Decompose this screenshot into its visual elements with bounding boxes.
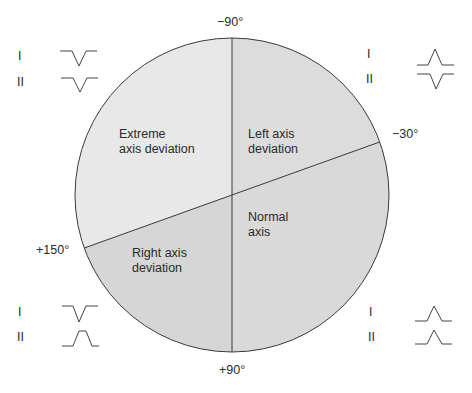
region-label-extreme: Extreme axis deviation	[119, 127, 195, 157]
lead-label-bottom-left-i: I	[18, 305, 21, 319]
waveform-top-left-lead-ii-negative-icon	[61, 78, 98, 92]
angle-label-left: +150°	[36, 243, 69, 257]
region-label-normal-line2: axis	[248, 225, 288, 240]
region-label-right-line2: deviation	[132, 261, 187, 276]
waveform-top-right-lead-i-positive-icon	[417, 49, 454, 65]
region-label-extreme-line2: axis deviation	[119, 142, 195, 157]
lead-label-bottom-right-i: I	[369, 305, 372, 319]
region-label-normal-line1: Normal	[248, 210, 288, 225]
region-label-left: Left axis deviation	[248, 127, 298, 157]
region-label-extreme-line1: Extreme	[119, 127, 195, 142]
waveform-top-left-lead-i-negative-icon	[60, 51, 97, 66]
region-label-left-line2: deviation	[248, 142, 298, 157]
lead-label-bottom-left-ii: II	[17, 330, 24, 344]
axis-circle-graphic	[0, 0, 472, 393]
lead-label-top-left-ii: II	[17, 75, 24, 89]
waveform-bottom-right-lead-i-positive-icon	[415, 306, 452, 321]
region-label-right-line1: Right axis	[132, 246, 187, 261]
cardiac-axis-diagram: −90° −30° +150° +90° Extreme axis deviat…	[0, 0, 472, 393]
lead-label-top-left-i: I	[18, 49, 21, 63]
lead-label-bottom-right-ii: II	[368, 330, 375, 344]
angle-label-right: −30°	[392, 127, 418, 141]
region-label-normal: Normal axis	[248, 210, 288, 240]
lead-label-top-right-i: I	[367, 47, 370, 61]
lead-label-top-right-ii: II	[366, 72, 373, 86]
waveform-top-right-lead-ii-negative-icon	[417, 74, 454, 89]
waveform-bottom-left-lead-i-negative-icon	[62, 306, 98, 322]
angle-label-bottom: +90°	[219, 363, 245, 377]
waveform-bottom-right-lead-ii-positive-icon	[415, 330, 452, 344]
angle-label-top: −90°	[217, 15, 243, 29]
waveform-bottom-left-lead-ii-positive-icon	[62, 331, 99, 346]
region-label-left-line1: Left axis	[248, 127, 298, 142]
region-label-right: Right axis deviation	[132, 246, 187, 276]
